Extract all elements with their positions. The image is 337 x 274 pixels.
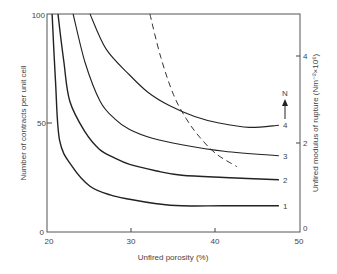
x-axis-title: Unfired porosity (%) — [138, 253, 209, 262]
series-curve-4 — [90, 14, 279, 127]
increasing-n-arrow: N — [282, 89, 288, 119]
y2-axis-title: Unfired modulus of rupture (Nm⁻²×10⁶) — [311, 54, 320, 193]
y-tick-label: 0 — [40, 228, 45, 237]
right-y-axis: 0 2 4 — [296, 52, 308, 233]
series-label: 2 — [283, 176, 288, 185]
left-y-axis: 0 50 100 — [32, 11, 52, 237]
x-tick-label: 50 — [295, 237, 304, 246]
x-axis: 20 30 40 50 — [45, 228, 304, 246]
y2-tick-label: 0 — [303, 224, 308, 233]
series-curve-1 — [52, 14, 279, 206]
y-tick-label: 50 — [37, 119, 46, 128]
series-curve-2 — [58, 14, 279, 180]
y-tick-label: 100 — [32, 11, 46, 20]
series-curve-3 — [73, 14, 279, 156]
plot-frame — [47, 14, 300, 232]
series-label: 1 — [283, 202, 288, 211]
x-tick-label: 30 — [127, 237, 136, 246]
y-axis-title: Number of contracts per unit cell — [19, 65, 28, 180]
x-tick-label: 40 — [211, 237, 220, 246]
chart: 0 50 100 0 2 4 20 30 40 50 Unfired poros… — [0, 0, 337, 274]
y2-tick-label: 4 — [303, 52, 308, 61]
n-annotation-label: N — [282, 89, 288, 98]
series-label: 3 — [283, 152, 288, 161]
series-label: 4 — [283, 121, 288, 130]
series-layer: 1234 — [52, 14, 288, 211]
y2-tick-label: 2 — [303, 139, 308, 148]
modulus-of-rupture-curve — [150, 14, 237, 167]
x-tick-label: 20 — [45, 237, 54, 246]
